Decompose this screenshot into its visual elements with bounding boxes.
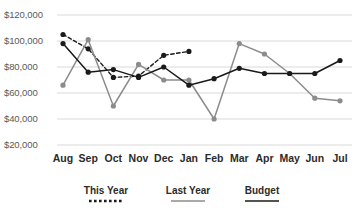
data-point-this-year bbox=[186, 49, 191, 54]
y-axis-tick-label: $80,000 bbox=[4, 61, 38, 72]
data-point-budget bbox=[262, 71, 267, 76]
data-point-this-year bbox=[111, 75, 116, 80]
series-line-last-year bbox=[63, 40, 340, 119]
x-axis-tick-label-dec: Dec bbox=[154, 152, 173, 164]
series-lines bbox=[60, 32, 342, 122]
x-axis-tick-label-mar: Mar bbox=[230, 152, 249, 164]
data-point-budget bbox=[161, 64, 166, 69]
data-point-last-year bbox=[262, 51, 267, 56]
data-point-last-year bbox=[161, 77, 166, 82]
x-axis-tick-label-sep: Sep bbox=[79, 152, 98, 164]
data-point-budget bbox=[136, 75, 141, 80]
y-axis-tick-label: $120,000 bbox=[4, 9, 43, 20]
data-point-budget bbox=[60, 41, 65, 46]
data-point-budget bbox=[86, 70, 91, 75]
data-point-last-year bbox=[136, 62, 141, 67]
data-point-this-year bbox=[60, 32, 65, 37]
series-line-budget bbox=[63, 44, 340, 86]
y-axis-tick-label: $20,000 bbox=[4, 139, 38, 150]
data-point-budget bbox=[312, 71, 317, 76]
data-point-last-year bbox=[312, 96, 317, 101]
line-chart: $120,000$100,000$80,000$60,000$40,000$20… bbox=[0, 0, 358, 219]
data-point-budget bbox=[211, 76, 216, 81]
data-point-last-year bbox=[186, 77, 191, 82]
x-axis-tick-label-jan: Jan bbox=[180, 152, 198, 164]
x-axis-tick-label-nov: Nov bbox=[129, 152, 149, 164]
x-axis-tick-label-apr: Apr bbox=[255, 152, 273, 164]
data-point-last-year bbox=[86, 37, 91, 42]
data-point-last-year bbox=[211, 116, 216, 121]
gridlines bbox=[57, 15, 352, 145]
x-axis-tick-label-may: May bbox=[279, 152, 299, 164]
data-point-budget bbox=[186, 83, 191, 88]
data-point-last-year bbox=[337, 98, 342, 103]
data-point-last-year bbox=[60, 83, 65, 88]
legend-label-budget[interactable]: Budget bbox=[245, 185, 279, 196]
x-axis-tick-label-jul: Jul bbox=[332, 152, 347, 164]
data-point-budget bbox=[111, 67, 116, 72]
y-axis-tick-label: $100,000 bbox=[4, 35, 43, 46]
data-point-last-year bbox=[111, 103, 116, 108]
x-axis-tick-label-jun: Jun bbox=[305, 152, 324, 164]
x-axis-tick-label-feb: Feb bbox=[205, 152, 224, 164]
data-point-this-year bbox=[86, 46, 91, 51]
data-point-budget bbox=[237, 66, 242, 71]
y-axis-tick-label: $40,000 bbox=[4, 113, 38, 124]
legend-label-last-year[interactable]: Last Year bbox=[166, 185, 210, 196]
y-axis-tick-label: $60,000 bbox=[4, 87, 38, 98]
data-point-last-year bbox=[237, 41, 242, 46]
data-point-budget bbox=[337, 58, 342, 63]
data-point-budget bbox=[287, 71, 292, 76]
x-axis-tick-label-aug: Aug bbox=[53, 152, 73, 164]
data-point-this-year bbox=[161, 53, 166, 58]
legend-label-this-year[interactable]: This Year bbox=[84, 185, 128, 196]
x-axis-tick-label-oct: Oct bbox=[105, 152, 123, 164]
